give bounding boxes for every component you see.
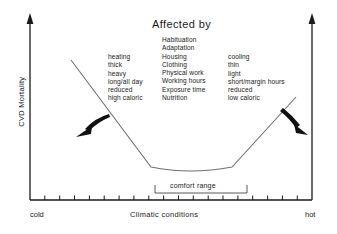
cold-response-column: heating thick heavy long/all day reduced… <box>108 53 143 103</box>
list-item: Housing <box>162 53 206 61</box>
y-axis-left <box>27 13 34 200</box>
factors-middle-column: Habituation Adaptation Housing Clothing … <box>162 36 206 102</box>
list-item: light <box>228 70 285 78</box>
x-axis-right-label: hot <box>305 211 315 219</box>
list-item: thin <box>228 61 285 69</box>
list-item: Working hours <box>162 77 206 85</box>
list-item: high caloric <box>108 94 143 102</box>
list-item: Habituation <box>162 36 206 44</box>
list-item: thick <box>108 61 143 69</box>
y-axis-label: CVD Mortality <box>18 62 26 142</box>
comfort-range-label: comfort range <box>170 182 216 189</box>
chart-title: Affected by <box>152 19 211 30</box>
list-item: reduced <box>228 86 285 94</box>
list-item: Nutrition <box>162 94 206 102</box>
x-axis <box>30 196 312 201</box>
x-axis-left-label: cold <box>30 211 44 219</box>
list-item: heavy <box>108 70 143 78</box>
y-axis-right <box>309 13 316 200</box>
list-item: short/margin hours <box>228 78 285 86</box>
x-axis-label: Climatic conditions <box>130 211 198 219</box>
list-item: Clothing <box>162 61 206 69</box>
hot-side-arrow-icon <box>280 108 308 135</box>
list-item: heating <box>108 53 143 61</box>
list-item: long/all day <box>108 78 143 86</box>
list-item: Exposure time <box>162 86 206 94</box>
list-item: reduced <box>108 86 143 94</box>
figure-root: Affected by Habituation Adaptation Housi… <box>0 0 337 234</box>
heat-response-column: cooling thin light short/margin hours re… <box>228 53 285 103</box>
list-item: Physical work <box>162 69 206 77</box>
cold-side-arrow-icon <box>76 114 110 137</box>
list-item: low caloric <box>228 94 285 102</box>
list-item: Adaptation <box>162 44 206 52</box>
list-item: cooling <box>228 53 285 61</box>
